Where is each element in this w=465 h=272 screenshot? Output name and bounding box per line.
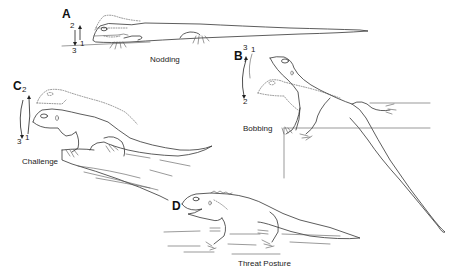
panel-a-drawing (62, 15, 368, 49)
panel-c-raised-outline (37, 89, 137, 124)
panel-b-lower-hind-foot (300, 134, 312, 140)
panel-b-number-2: 2 (243, 97, 247, 106)
panel-d-letter: D (172, 199, 181, 213)
panel-c-jaw-outline (33, 122, 76, 136)
panel-c-front-foot (66, 150, 78, 157)
panel-b-down-arrow (242, 60, 246, 96)
panel-c-drawing (20, 89, 212, 200)
panel-a-caption: Nodding (150, 55, 180, 64)
panel-b-number-1: 1 (251, 45, 255, 54)
panel-c-ear (56, 116, 59, 121)
panel-b-lower-hind-leg (306, 98, 330, 134)
panel-a-jaw-line (94, 34, 128, 36)
panel-c-caption: Challenge (22, 157, 58, 166)
arrowhead-icon (244, 56, 248, 60)
panel-b-letter: B (234, 49, 243, 63)
arrowhead-icon (78, 25, 82, 29)
panel-b-lowered-eye (269, 81, 275, 85)
panel-d-far-hind-foot (258, 230, 268, 234)
panel-b-throat-outline (270, 58, 300, 130)
panel-b-eye (282, 59, 289, 63)
panel-c-raised-eye (47, 93, 53, 96)
panel-b-lowered-jaw (258, 93, 298, 110)
lizard-display-figure: A B C D 2 1 3 3 1 2 2 3 1 Nodding Bobbin… (0, 0, 465, 272)
panel-b-ear (291, 71, 294, 75)
panel-b-caption: Bobbing (243, 124, 272, 133)
panel-c-up-arrow (28, 98, 30, 134)
panel-a-front-foot (110, 42, 126, 49)
panel-c-raised-jaw (37, 100, 66, 104)
panel-c-perch-edge (62, 150, 168, 200)
panel-a-number-3: 3 (72, 46, 76, 55)
panel-c-body-outline (33, 109, 212, 156)
panel-c-perch-top (62, 149, 94, 150)
panel-c-perch-dashes (126, 154, 190, 176)
panel-d-ear (209, 201, 212, 205)
panel-a-hind-foot (193, 36, 209, 44)
panel-d-ground-lines (164, 231, 340, 254)
panel-c-letter: C (13, 79, 22, 93)
panel-d-drawing (164, 191, 360, 254)
panel-d-eye (193, 197, 199, 201)
panel-a-front-leg (124, 36, 142, 40)
panel-a-letter: A (62, 7, 71, 21)
panel-d-caption: Threat Posture (238, 259, 291, 268)
panel-a-body-outline (93, 23, 368, 43)
panel-a-number-2: 2 (70, 21, 74, 30)
illustration-canvas (0, 0, 465, 272)
panel-c-hind-foot (106, 145, 118, 152)
panel-d-rear-front-foot (210, 228, 220, 231)
panel-b-upper-hind-foot (386, 104, 396, 114)
panel-c-number-2: 2 (22, 85, 26, 94)
panel-c-eye (41, 114, 48, 118)
panel-c-number-3: 3 (17, 137, 21, 146)
panel-a-dewlap (104, 36, 120, 37)
panel-b-guide-line (249, 54, 252, 78)
panel-d-neck-dots (214, 200, 228, 210)
panel-d-open-mouth (182, 204, 222, 221)
panel-a-number-1: 1 (80, 39, 84, 48)
panel-b-number-3: 3 (243, 43, 247, 52)
arrowhead-icon (27, 95, 31, 99)
panel-b-drawing (242, 54, 445, 232)
panel-b-body-tail-outline (270, 57, 445, 233)
panel-c-down-arrow (20, 100, 23, 136)
panel-d-body-tail-outline (182, 193, 360, 239)
panel-b-front-leg (286, 108, 300, 134)
panel-a-hind-leg (180, 32, 200, 38)
panel-c-number-1: 1 (25, 133, 29, 142)
